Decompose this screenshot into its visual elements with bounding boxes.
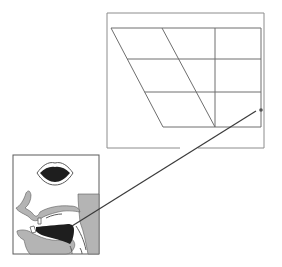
vowel-quadrilateral	[111, 28, 261, 127]
central-vowel-line	[162, 28, 215, 127]
vowel-diagram	[0, 0, 282, 267]
vowel-point-marker	[259, 108, 263, 112]
diagram-canvas	[0, 0, 282, 267]
vowel-chart-frame	[107, 13, 264, 148]
upper-teeth	[38, 218, 41, 224]
vowel-chart	[107, 13, 264, 148]
articulation-panel	[13, 155, 99, 254]
pointer-line	[72, 111, 256, 226]
